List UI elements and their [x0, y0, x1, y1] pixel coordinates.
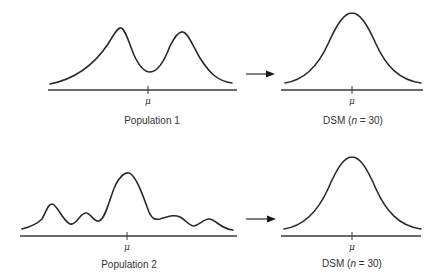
panel-dsm-1: μ DSM (n = 30) [281, 13, 423, 126]
panel-dsm-2: μ DSM (n = 30) [281, 157, 421, 269]
dsm-1-caption-prefix: DSM ( [323, 115, 352, 126]
population-1-density-curve [50, 28, 232, 84]
right-arrow-icon [246, 71, 275, 78]
dsm-2-caption: DSM (n = 30) [322, 258, 382, 269]
population-2-mean-label: μ [124, 242, 130, 252]
dsm-1-mean-label: μ [349, 96, 355, 106]
population-1-caption: Population 1 [124, 115, 180, 126]
panel-population-1: μ Population 1 [48, 28, 237, 126]
sampling-distribution-diagram: μ Population 1 μ DSM (n = 30) μ Populati… [0, 0, 445, 278]
dsm-2-mean-label: μ [349, 242, 355, 252]
population-1-mean-label: μ [145, 96, 151, 106]
dsm-1-normal-curve [285, 13, 421, 83]
dsm-2-normal-curve [284, 157, 421, 229]
dsm-1-caption: DSM (n = 30) [323, 115, 383, 126]
population-2-caption: Population 2 [101, 259, 157, 270]
dsm-2-caption-suffix: = 30) [356, 258, 382, 269]
population-2-density-curve [22, 173, 233, 230]
panel-population-2: μ Population 2 [20, 173, 237, 270]
right-arrow-icon [246, 216, 276, 223]
dsm-1-caption-suffix: = 30) [357, 115, 383, 126]
dsm-2-caption-prefix: DSM ( [322, 258, 351, 269]
